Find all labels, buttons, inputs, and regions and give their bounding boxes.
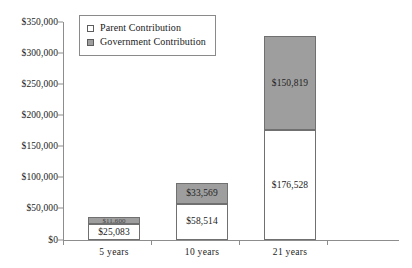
bar-value-label: $150,819 [272, 78, 308, 89]
bar-value-label: $11,600 [102, 217, 125, 224]
chart-legend: Parent Contribution Government Contribut… [79, 15, 216, 56]
bar-segment-government[interactable]: $150,819 [264, 36, 316, 130]
bar-segment-government[interactable]: $33,569 [176, 183, 228, 204]
x-tick-mark [63, 240, 64, 245]
bar-value-label: $33,569 [186, 188, 218, 199]
x-axis-label-21-years: 21 years [264, 247, 316, 258]
y-tick-label: $0 [0, 235, 58, 245]
white-square-icon [87, 25, 94, 32]
legend-label: Parent Contribution [100, 22, 181, 34]
bar-group-10-years[interactable]: $33,569 $58,514 [176, 183, 228, 240]
bar-value-label: $58,514 [186, 216, 218, 227]
x-axis-label-5-years: 5 years [88, 247, 140, 258]
x-tick-mark [239, 240, 240, 245]
y-tick-label: $150,000 [0, 141, 58, 151]
y-tick-label: $250,000 [0, 79, 58, 89]
x-tick-mark [327, 240, 328, 245]
bar-segment-parent[interactable]: $58,514 [176, 204, 228, 241]
y-tick-label: $200,000 [0, 110, 58, 120]
bar-segment-parent[interactable]: $176,528 [264, 130, 316, 240]
x-axis-label-10-years: 10 years [176, 247, 228, 258]
legend-item-parent-contribution[interactable]: Parent Contribution [87, 21, 206, 35]
y-tick-label: $300,000 [0, 48, 58, 58]
bar-group-5-years[interactable]: $11,600 $25,083 [88, 217, 140, 240]
bar-segment-parent[interactable]: $25,083 [88, 224, 140, 240]
y-tick-label: $350,000 [0, 17, 58, 27]
legend-item-government-contribution[interactable]: Government Contribution [87, 35, 206, 49]
legend-label: Government Contribution [100, 36, 206, 48]
bar-value-label: $25,083 [98, 227, 130, 238]
gray-square-icon [87, 39, 94, 46]
y-axis-labels: $350,000 $300,000 $250,000 $200,000 $150… [0, 0, 58, 268]
bar-segment-government[interactable]: $11,600 [88, 217, 140, 224]
y-tick-label: $50,000 [0, 203, 58, 213]
x-tick-mark [151, 240, 152, 245]
y-tick-label: $100,000 [0, 172, 58, 182]
stacked-bar-chart: $350,000 $300,000 $250,000 $200,000 $150… [0, 0, 412, 268]
bar-group-21-years[interactable]: $150,819 $176,528 [264, 36, 316, 240]
bar-value-label: $176,528 [272, 180, 308, 191]
